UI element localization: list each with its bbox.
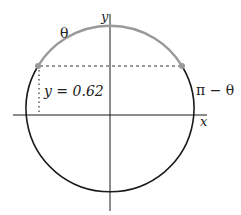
y-axis-label: y <box>100 9 109 24</box>
theta-label: θ <box>60 25 68 41</box>
x-axis-label: x <box>200 114 208 129</box>
pi-minus-theta-label: π − θ <box>196 82 234 98</box>
unit-circle-diagram: y x θ π − θ y = 0.62 <box>0 0 241 215</box>
left-point <box>35 63 41 69</box>
right-point <box>179 63 185 69</box>
y-value-label: y = 0.62 <box>43 83 104 99</box>
